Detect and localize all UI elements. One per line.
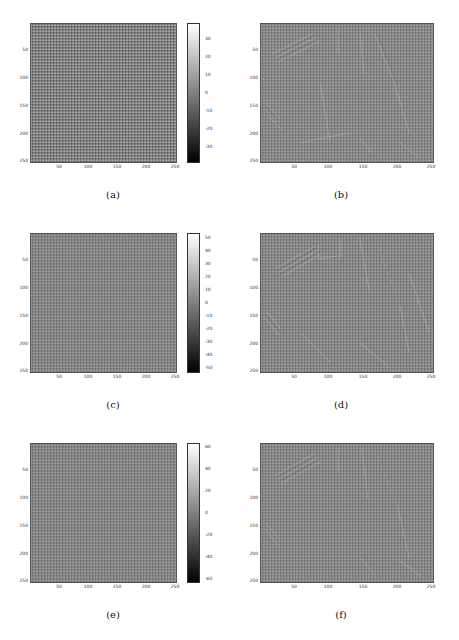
y-tick: 200	[249, 342, 260, 347]
x-tick: 250	[427, 375, 436, 380]
x-tick: 200	[393, 375, 402, 380]
x-tick: 150	[359, 165, 368, 170]
subfigure-b: 50 100 150 200 250 50 100 150 200 250 (b…	[0, 0, 459, 210]
x-tick: 50	[291, 585, 297, 590]
x-tick: 150	[359, 585, 368, 590]
y-tick: 50	[252, 48, 260, 53]
x-tick: 50	[291, 165, 297, 170]
x-tick: 100	[324, 165, 333, 170]
image-panel-d	[260, 233, 434, 373]
edge-lines	[261, 444, 433, 582]
caption-f: (f)	[335, 609, 347, 620]
image-panel-b	[260, 23, 434, 163]
x-tick: 150	[359, 375, 368, 380]
x-tick: 100	[324, 375, 333, 380]
y-tick: 100	[249, 286, 260, 291]
y-tick: 150	[249, 104, 260, 109]
y-tick: 50	[252, 258, 260, 263]
caption-b: (b)	[334, 189, 348, 200]
image-panel-f	[260, 443, 434, 583]
y-tick: 150	[249, 314, 260, 319]
y-tick: 200	[249, 132, 260, 137]
x-tick: 50	[291, 375, 297, 380]
caption-d: (d)	[334, 399, 348, 410]
y-tick: 250	[249, 159, 260, 164]
y-tick: 50	[252, 468, 260, 473]
subfigure-d: 50 100 150 200 250 50 100 150 200 250 (d…	[0, 210, 459, 420]
y-tick: 250	[249, 369, 260, 374]
edge-lines	[261, 234, 433, 372]
subfigure-f: 50 100 150 200 250 50 100 150 200 250 (f…	[0, 420, 459, 640]
x-tick: 100	[324, 585, 333, 590]
x-tick: 250	[427, 585, 436, 590]
y-tick: 100	[249, 496, 260, 501]
x-tick: 200	[393, 585, 402, 590]
y-tick: 200	[249, 552, 260, 557]
edge-lines	[261, 24, 433, 162]
x-tick: 200	[393, 165, 402, 170]
y-tick: 150	[249, 524, 260, 529]
y-tick: 250	[249, 579, 260, 584]
x-tick: 250	[427, 165, 436, 170]
y-tick: 100	[249, 76, 260, 81]
